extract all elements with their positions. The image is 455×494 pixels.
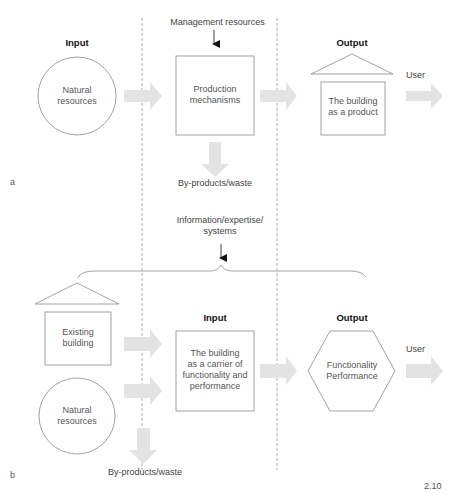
figure-number: 2.10 bbox=[424, 481, 442, 491]
text-line: Natural bbox=[47, 405, 107, 416]
text-line: Production bbox=[176, 84, 254, 95]
panel-letter-b: b bbox=[10, 470, 15, 480]
text-line: mechanisms bbox=[176, 95, 254, 106]
user-arrow-icon bbox=[406, 356, 443, 385]
building-carrier-label: The building as a carrier of functionali… bbox=[174, 348, 256, 392]
byproducts-arrow-icon bbox=[129, 428, 157, 464]
user-label-a: User bbox=[406, 70, 436, 81]
input-heading-b: Input bbox=[195, 312, 235, 323]
byproducts-label-a: By-products/waste bbox=[165, 178, 265, 189]
information-expertise-label: Information/expertise/ systems bbox=[160, 215, 280, 237]
text-line: resources bbox=[47, 416, 107, 427]
brace-connector bbox=[78, 265, 366, 278]
text-line: The building bbox=[321, 96, 385, 107]
functionality-label: Functionality Performance bbox=[310, 360, 394, 382]
roof-triangle-b bbox=[35, 283, 119, 304]
roof-triangle-a bbox=[311, 54, 393, 74]
flow-arrow-icon bbox=[124, 376, 162, 405]
byproducts-label-b: By-products/waste bbox=[95, 467, 195, 478]
text-line: Information/expertise/ bbox=[160, 215, 280, 226]
natural-resources-label-b: Natural resources bbox=[47, 405, 107, 427]
byproducts-arrow-icon bbox=[201, 142, 229, 177]
text-line: Existing bbox=[45, 327, 111, 338]
panel-letter-a: a bbox=[10, 177, 15, 187]
flow-arrow-icon bbox=[124, 82, 162, 110]
flow-arrow-icon bbox=[124, 329, 162, 358]
input-heading-a: Input bbox=[57, 37, 97, 48]
output-heading-a: Output bbox=[332, 37, 372, 48]
text-line: building bbox=[45, 338, 111, 349]
text-line: as a product bbox=[321, 107, 385, 118]
output-heading-b: Output bbox=[332, 312, 372, 323]
text-line: resources bbox=[47, 96, 107, 107]
management-resources-label: Management resources bbox=[160, 17, 275, 28]
building-product-label: The building as a product bbox=[321, 96, 385, 118]
text-line: systems bbox=[160, 226, 280, 237]
text-line: functionality and bbox=[174, 370, 256, 381]
flow-arrow-icon bbox=[260, 356, 297, 385]
user-arrow-icon bbox=[406, 83, 443, 109]
text-line: as a carrier of bbox=[174, 359, 256, 370]
text-line: The building bbox=[174, 348, 256, 359]
existing-building-label: Existing building bbox=[45, 327, 111, 349]
production-mechanisms-label: Production mechanisms bbox=[176, 84, 254, 106]
text-line: Natural bbox=[47, 85, 107, 96]
user-label-b: User bbox=[406, 344, 436, 355]
flow-arrow-icon bbox=[260, 82, 297, 110]
text-line: Performance bbox=[310, 371, 394, 382]
natural-resources-label-a: Natural resources bbox=[47, 85, 107, 107]
text-line: Functionality bbox=[310, 360, 394, 371]
text-line: performance bbox=[174, 381, 256, 392]
